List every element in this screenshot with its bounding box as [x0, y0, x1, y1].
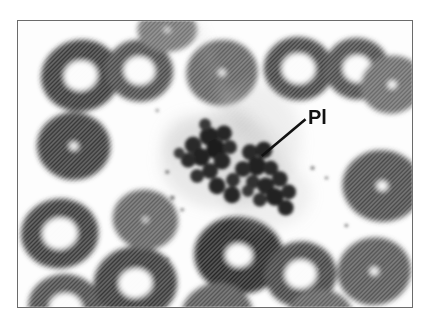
platelet-granule — [223, 186, 240, 203]
platelet-granule — [253, 193, 267, 207]
platelet-label: Pl — [308, 107, 327, 127]
platelet-granule — [278, 200, 294, 216]
debris-speck — [156, 109, 159, 112]
platelet-granule — [202, 163, 218, 179]
figure-root: Pl — [0, 0, 434, 330]
platelet-granule — [223, 140, 237, 154]
debris-speck — [170, 195, 175, 200]
platelet-granule — [216, 125, 232, 141]
debris-speck — [165, 170, 169, 174]
debris-speck — [165, 258, 169, 262]
platelet-granule — [281, 184, 296, 199]
platelet-granule — [235, 161, 251, 177]
platelet-granule — [199, 118, 211, 130]
platelet-granule — [190, 169, 204, 183]
debris-speck — [180, 208, 184, 212]
platelet-granule — [174, 148, 185, 159]
debris-speck — [325, 176, 328, 179]
micrograph-frame — [17, 20, 413, 308]
platelet-granule — [242, 185, 254, 197]
platelet-granule — [209, 177, 226, 194]
debris-speck — [345, 224, 349, 228]
debris-speck — [311, 166, 315, 170]
micrograph-image — [18, 21, 412, 307]
debris-speck — [227, 232, 231, 236]
platelet-granule — [272, 171, 288, 187]
